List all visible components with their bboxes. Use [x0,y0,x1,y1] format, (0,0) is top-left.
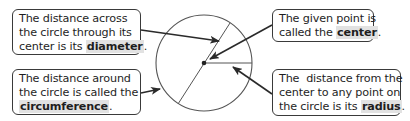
center-text-line-2: called the center. [279,26,368,40]
radius-callout: The distance from the center to any poin… [272,69,401,116]
radius-text-line-2: center to any point on [279,86,395,100]
diameter-keyword: diameter [86,40,144,53]
circumference-text-line-2: the circle is called the [19,86,135,100]
center-callout: The given point is called the center. [272,9,374,42]
center-text-prefix: called the [279,26,336,39]
radius-suffix: . [402,100,405,113]
diameter-arrow [141,30,219,41]
radius-keyword: radius [361,100,402,113]
radius-text-prefix: the circle is its [279,100,361,113]
circumference-keyword: circumference [19,100,109,113]
center-arrow [210,25,272,59]
diameter-text-line-1: The distance across [19,12,135,26]
diameter-callout: The distance across the circle through i… [12,9,141,55]
diameter-suffix: . [144,40,147,53]
diameter-text-line-2: the circle through its [19,26,135,40]
radius-arrow [233,67,272,94]
circumference-callout: The distance around the circle is called… [12,69,141,115]
center-keyword: center [336,26,378,39]
center-text-line-1: The given point is [279,12,368,26]
radius-text-line-3: the circle is its radius. [279,100,395,114]
diameter-text-prefix: center is its [19,40,86,53]
circle-parts-diagram: The distance across the circle through i… [0,0,410,121]
radius-text-line-1: The distance from the [279,72,395,86]
circumference-text-line-3: circumference. [19,100,135,114]
circumference-text-line-1: The distance around [19,72,135,86]
circumference-arrow [141,89,160,93]
circumference-suffix: . [109,100,112,113]
diameter-text-line-3: center is its diameter. [19,40,135,54]
center-point-dot [202,61,207,66]
center-suffix: . [378,26,381,39]
